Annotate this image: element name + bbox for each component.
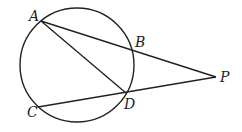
label-p: P <box>219 69 230 85</box>
label-a: A <box>27 8 39 24</box>
geometry-diagram: A B D C P <box>0 0 242 132</box>
label-c: C <box>27 104 38 120</box>
label-d: D <box>123 96 135 112</box>
secant-a-p <box>41 21 216 77</box>
chord-a-d <box>41 21 126 93</box>
label-b: B <box>134 34 145 50</box>
